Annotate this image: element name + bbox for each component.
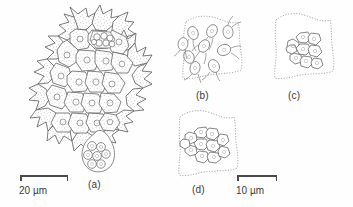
scale-bar-10um xyxy=(237,175,277,182)
panel-d-daughter-coenobium xyxy=(179,111,238,176)
panel-label-a: (a) xyxy=(88,179,101,190)
scale-bar-tick-left xyxy=(20,175,22,181)
panel-c-young-coenobium xyxy=(275,14,334,79)
scale-bar-20um-label: 20 µm xyxy=(19,185,47,196)
panel-a-colony xyxy=(29,5,152,172)
panel-b-zoospores xyxy=(174,16,242,83)
scale-bar-rule xyxy=(237,175,277,177)
scale-bar-20um xyxy=(20,175,68,182)
figure-canvas: (a) (b) (c) (d) 20 µm 10 µm xyxy=(0,0,353,207)
scale-bar-tick-left xyxy=(237,175,239,181)
panel-label-d: (d) xyxy=(192,184,205,195)
scale-bar-10um-label: 10 µm xyxy=(236,185,264,196)
panel-label-b: (b) xyxy=(196,90,209,101)
panel-label-c: (c) xyxy=(288,90,300,101)
scale-bar-rule xyxy=(20,175,68,177)
scale-bar-tick-right xyxy=(67,175,69,181)
panel-a-central-daughter-packet xyxy=(90,31,115,48)
scale-bar-tick-right xyxy=(276,175,278,181)
